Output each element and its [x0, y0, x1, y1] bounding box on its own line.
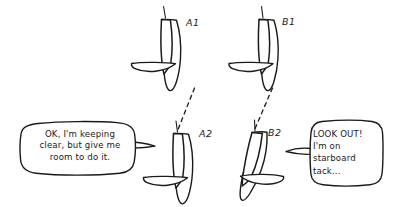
track-b-dashed-line [254, 88, 273, 131]
boat-b1 [229, 7, 278, 91]
boat-label-a1: A1 [186, 17, 200, 28]
track-a-dashed-line [177, 88, 195, 132]
boat-a2-masthead-tick [176, 121, 178, 132]
boat-b1-masthead-tick [262, 7, 264, 19]
speech-bubble-b-tail [286, 148, 313, 154]
boat-a1-masthead-tick [164, 7, 166, 19]
boat-label-a2: A2 [199, 128, 213, 139]
boat-label-b2: B2 [268, 127, 282, 138]
speech-bubble-b-text: LOOK OUT! I'm on starboard tack... [313, 128, 379, 177]
speech-bubble-a-text: OK, I'm keeping clear, but give me room … [24, 129, 136, 163]
boat-label-b1: B1 [282, 16, 296, 27]
boat-a2 [143, 121, 192, 204]
boat-b2-masthead-tick [255, 120, 256, 131]
boat-a1 [131, 7, 180, 91]
sailing-rules-diagram: A1 B1 A2 B2 OK, I'm keeping clear, but g… [0, 0, 393, 207]
